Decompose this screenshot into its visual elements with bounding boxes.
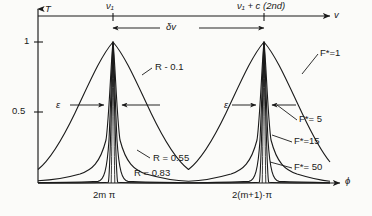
x-tick-label-nu1-plus-c: ν₁ + c (2nd)	[237, 1, 285, 11]
curve-f1	[38, 42, 330, 170]
x-tick-label-2m-pi: 2m π	[93, 190, 115, 200]
curve-label-r-0-83: R = 0.83	[134, 168, 170, 178]
curve-label-f50: F*= 50	[294, 162, 322, 172]
y-tick-label-0-5: 0.5	[12, 106, 25, 116]
x-axis-label-top: v	[334, 10, 339, 20]
epsilon-label-right: ε	[224, 100, 228, 110]
x-tick-label-nu1: ν₁	[106, 1, 114, 11]
curve-label-f15: F*=15	[294, 136, 320, 146]
curve-label-f5: F*= 5	[299, 114, 322, 124]
curve-label-f1: F*=1	[320, 48, 340, 58]
curve-label-r-0-1: R - 0.1	[155, 62, 184, 72]
epsilon-label-left: ε	[56, 100, 60, 110]
y-tick-label-1: 1	[24, 36, 29, 46]
y-axis-label: T	[45, 4, 51, 14]
free-spectral-range-label: δv	[166, 22, 176, 32]
y-axis	[34, 9, 43, 183]
x-axis-top	[38, 13, 330, 21]
curve-label-r-0-55: R = 0.55	[153, 153, 189, 163]
x-axis-label-bottom: ϕ	[345, 176, 350, 186]
x-tick-label-2m1-pi: 2(m+1)·π	[232, 190, 272, 200]
figure-airy-transmission: T v ϕ 1 0.5 ν₁ ν₁ + c (2nd) δv ε ε R - 0…	[0, 0, 372, 216]
